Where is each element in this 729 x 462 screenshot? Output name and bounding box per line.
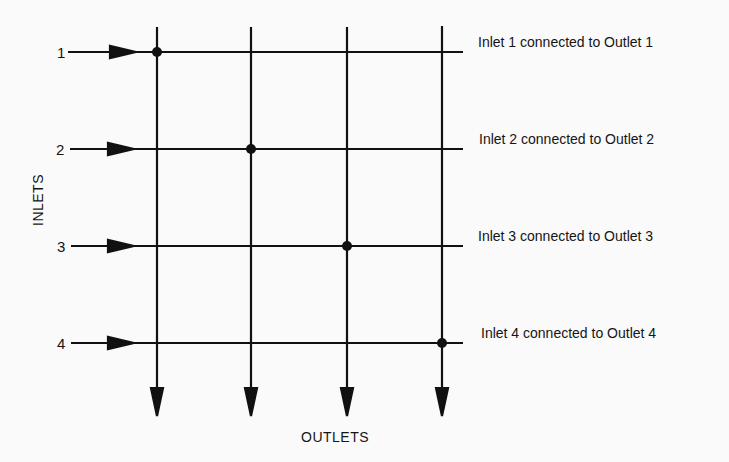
connection-dot-1-1-icon [152,47,162,57]
connection-label-2: Inlet 2 connected to Outlet 2 [479,132,654,146]
inlet-number-4: 4 [57,336,65,351]
outlets-axis-label: OUTLETS [301,429,369,445]
inlet-number-3: 3 [57,239,65,254]
inlet-arrow-1-icon [110,46,136,58]
outlet-arrow-1-icon [151,388,163,416]
inlet-arrow-4-icon [108,337,134,349]
inlet-arrow-3-icon [108,240,134,252]
connection-dot-4-4-icon [437,338,447,348]
inlet-lines [68,46,463,349]
outlet-arrow-4-icon [436,388,448,416]
connection-dots [152,47,447,348]
connection-label-3: Inlet 3 connected to Outlet 3 [478,229,653,243]
connection-dot-2-2-icon [246,144,256,154]
connection-label-4: Inlet 4 connected to Outlet 4 [481,326,656,340]
inlet-number-1: 1 [57,45,65,60]
outlet-arrow-3-icon [341,388,353,416]
connection-dot-3-3-icon [342,241,352,251]
connection-label-1: Inlet 1 connected to Outlet 1 [478,35,653,49]
outlet-lines [151,26,448,416]
inlet-number-2: 2 [56,142,64,157]
inlets-axis-label: INLETS [30,174,46,226]
outlet-arrow-2-icon [245,388,257,416]
inlet-arrow-2-icon [108,143,134,155]
